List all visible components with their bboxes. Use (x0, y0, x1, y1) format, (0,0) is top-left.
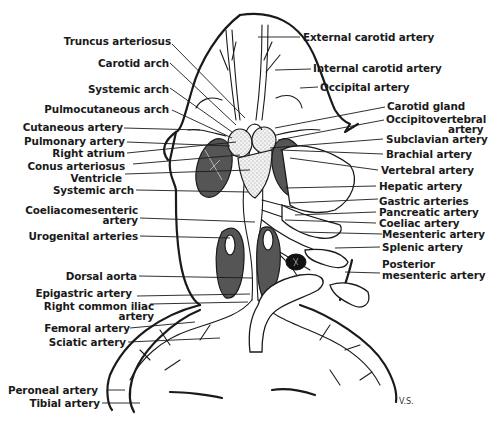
label-occipital-artery: Occipital artery (320, 82, 409, 93)
label-internal-carotid-artery: Internal carotid artery (313, 63, 442, 74)
label-carotid-gland: Carotid gland (387, 101, 465, 112)
label-hepatic-artery: Hepatic artery (379, 181, 462, 192)
label-vertebral-artery: Vertebral artery (381, 165, 474, 176)
label-systemic-arch-upper: Systemic arch (88, 84, 169, 95)
label-right-common-iliac-line2: artery (119, 311, 154, 322)
label-systemic-arch-lower: Systemic arch (53, 185, 134, 196)
label-epigastric-artery: Epigastric artery (35, 288, 132, 299)
label-ventricle: Ventricle (71, 173, 122, 184)
label-tibial-artery: Tibial artery (29, 398, 100, 409)
label-truncus-arteriosus: Truncus arteriosus (64, 36, 171, 47)
artist-signature: V.S. (399, 397, 414, 406)
label-splenic-artery: Splenic artery (382, 242, 463, 253)
label-urogenital-arteries: Urogenital arteries (29, 231, 138, 242)
label-posterior-mesenteric-line2: mesenteric artery (382, 270, 485, 281)
label-subclavian-artery: Subclavian artery (386, 134, 488, 145)
label-mesenteric-artery: Mesenteric artery (382, 229, 485, 240)
label-dorsal-aorta: Dorsal aorta (66, 271, 137, 282)
label-right-atrium: Right atrium (52, 148, 125, 159)
label-conus-arteriosus: Conus arteriosus (27, 161, 125, 172)
frog-arterial-diagram: Truncus arteriosus Carotid arch Systemic… (0, 0, 498, 424)
label-sciatic-artery: Sciatic artery (49, 337, 126, 348)
label-femoral-artery: Femoral artery (44, 323, 130, 334)
label-pulmocutaneous-arch: Pulmocutaneous arch (44, 104, 169, 115)
heart (228, 124, 276, 198)
label-cutaneous-artery: Cutaneous artery (23, 122, 123, 133)
label-carotid-arch: Carotid arch (98, 58, 169, 69)
label-pulmonary-artery: Pulmonary artery (24, 136, 125, 147)
label-coeliacomesenteric-line2: artery (103, 215, 138, 226)
label-external-carotid-artery: External carotid artery (303, 32, 434, 43)
label-peroneal-artery: Peroneal artery (8, 385, 98, 396)
label-brachial-artery: Brachial artery (386, 149, 472, 160)
